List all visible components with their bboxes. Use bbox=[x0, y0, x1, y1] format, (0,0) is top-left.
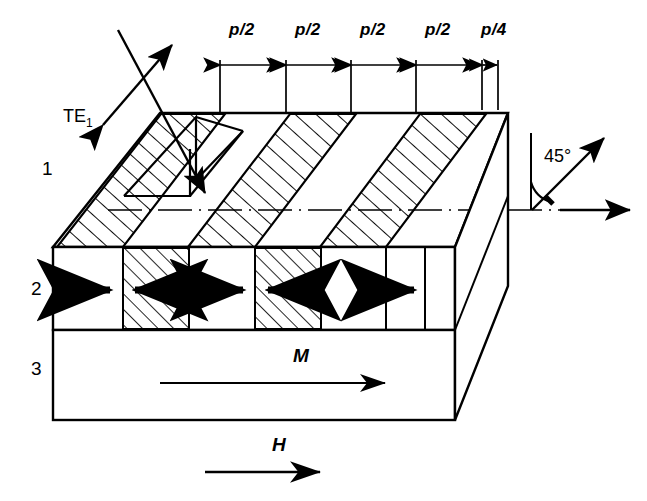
layer-label-1: 1 bbox=[42, 158, 53, 180]
front-faces bbox=[53, 247, 455, 420]
angle-annotation bbox=[531, 133, 630, 210]
dim-label-4: p/4 bbox=[481, 20, 506, 40]
te1-mode-label: TE1 bbox=[63, 106, 93, 130]
magnetisation-label: M bbox=[293, 345, 309, 367]
applied-field-label: H bbox=[272, 434, 286, 456]
waveguide-diagram bbox=[0, 0, 647, 501]
te1-mode-text: TE bbox=[63, 106, 86, 126]
dim-label-2: p/2 bbox=[360, 20, 385, 40]
dim-label-3: p/2 bbox=[425, 20, 450, 40]
layer-3-front bbox=[53, 330, 455, 420]
dim-label-1: p/2 bbox=[295, 20, 320, 40]
layer-label-3: 3 bbox=[31, 358, 42, 380]
layer-label-2: 2 bbox=[31, 278, 42, 300]
te1-mode-subscript: 1 bbox=[86, 116, 93, 130]
angle-label: 45° bbox=[544, 146, 571, 167]
dim-label-0: p/2 bbox=[229, 20, 254, 40]
